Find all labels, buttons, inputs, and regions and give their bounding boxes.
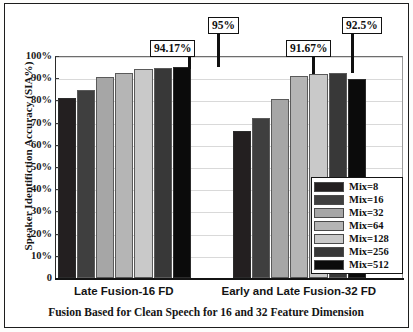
x-axis-title: Fusion Based for Clean Speech for 16 and… — [6, 306, 406, 318]
x-axis-line — [55, 278, 404, 280]
legend-item-mix-8[interactable]: Mix=8 — [314, 180, 400, 193]
bar-mix-256 — [154, 68, 172, 278]
bar-mix-8 — [233, 131, 251, 278]
legend-swatch — [314, 221, 344, 231]
y-axis-tick-mark — [55, 189, 59, 190]
callout-leader-line — [217, 30, 220, 67]
y-axis-tick-mark — [55, 145, 59, 146]
y-axis-title: Speaker Identifiction Accuracy (SIA%) — [22, 36, 34, 276]
bar-mix-64 — [290, 76, 308, 278]
legend-label: Mix=128 — [349, 233, 389, 244]
legend-item-mix-128[interactable]: Mix=128 — [314, 232, 400, 245]
y-axis-tick-mark — [55, 100, 59, 101]
legend-item-mix-256[interactable]: Mix=256 — [314, 245, 400, 258]
bar-mix-32 — [96, 77, 114, 278]
y-axis-tick-mark — [55, 234, 59, 235]
legend-item-mix-16[interactable]: Mix=16 — [314, 193, 400, 206]
bar-mix-16 — [77, 90, 95, 278]
y-axis-tick-mark — [55, 123, 59, 124]
legend-item-mix-64[interactable]: Mix=64 — [314, 219, 400, 232]
legend-label: Mix=8 — [349, 181, 378, 192]
legend-swatch — [314, 234, 344, 244]
bar-mix-512 — [173, 67, 191, 278]
figure-root: 100%90%80%70%60%50%40%30%20%10%0 Speaker… — [0, 0, 413, 332]
legend-label: Mix=16 — [349, 194, 384, 205]
legend-label: Mix=512 — [349, 259, 389, 270]
legend-label: Mix=256 — [349, 246, 389, 257]
legend-item-mix-32[interactable]: Mix=32 — [314, 206, 400, 219]
value-callout: 95% — [208, 17, 239, 34]
value-callout: 92.5% — [342, 17, 382, 34]
legend-swatch — [314, 182, 344, 192]
category-label-late-fusion-16-fd: Late Fusion-16 FD — [37, 285, 211, 297]
value-callout: 94.17% — [150, 40, 195, 57]
bar-mix-8 — [58, 98, 76, 278]
legend: Mix=8Mix=16Mix=32Mix=64Mix=128Mix=256Mix… — [311, 177, 403, 274]
callout-leader-line — [351, 30, 354, 73]
legend-item-mix-512[interactable]: Mix=512 — [314, 258, 400, 271]
bar-mix-64 — [115, 73, 133, 278]
y-axis-tick-mark — [55, 56, 59, 57]
category-label-early-late-fusion-32-fd: Early and Late Fusion-32 FD — [210, 285, 388, 297]
legend-swatch — [314, 208, 344, 218]
legend-swatch — [314, 247, 344, 257]
legend-label: Mix=32 — [349, 207, 384, 218]
bar-mix-128 — [134, 69, 152, 278]
legend-swatch — [314, 195, 344, 205]
bar-mix-32 — [271, 99, 289, 278]
legend-label: Mix=64 — [349, 220, 384, 231]
value-callout: 91.67% — [286, 40, 331, 57]
y-axis-tick-mark — [55, 78, 59, 79]
legend-swatch — [314, 260, 344, 270]
bar-mix-16 — [252, 118, 270, 278]
y-axis-tick-mark — [55, 211, 59, 212]
y-axis-tick-mark — [55, 167, 59, 168]
y-axis-tick-mark — [55, 256, 59, 257]
